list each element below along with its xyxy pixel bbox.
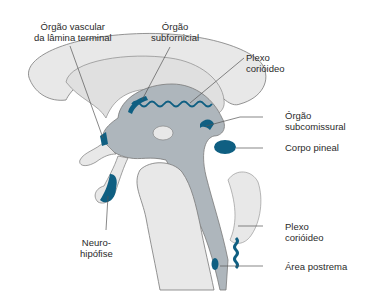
label-choroid-plexus-bottom: Plexo corióideo <box>285 221 324 243</box>
cerebellum <box>228 172 261 243</box>
label-sfo-line2: subfornicial <box>151 32 199 43</box>
label-sfo-line1: Órgão <box>151 21 199 32</box>
interthalamic-adhesion <box>153 126 173 140</box>
label-pineal-body: Corpo pineal <box>285 142 339 153</box>
label-subcommissural-organ: Órgão subcomissural <box>285 110 346 132</box>
label-plexo-bottom-line1: Plexo <box>285 221 324 232</box>
label-ovlt: Órgão vascular da lâmina terminal <box>34 21 112 43</box>
label-sco-line1: Órgão <box>285 110 346 121</box>
pineal-body <box>214 140 236 154</box>
label-plexo-top-line2: corióideo <box>246 63 285 74</box>
label-sco-line2: subcomissural <box>285 121 346 132</box>
label-plexo-bottom-line2: corióideo <box>285 232 324 243</box>
label-plexo-top-line1: Plexo <box>246 52 285 63</box>
area-postrema-organ <box>212 258 219 270</box>
label-area-postrema: Área postrema <box>285 261 347 272</box>
label-neuro-line2: hipófise <box>80 248 113 259</box>
label-ovlt-line1: Órgão vascular <box>34 21 112 32</box>
label-ovlt-line2: da lâmina terminal <box>34 32 112 43</box>
label-area-postrema-line1: Área postrema <box>285 261 347 272</box>
label-choroid-plexus-top: Plexo corióideo <box>246 52 285 74</box>
label-neurohypophysis: Neuro- hipófise <box>80 237 113 259</box>
label-sfo: Órgão subfornicial <box>151 21 199 43</box>
label-pineal-line1: Corpo pineal <box>285 142 339 153</box>
label-neuro-line1: Neuro- <box>80 237 113 248</box>
